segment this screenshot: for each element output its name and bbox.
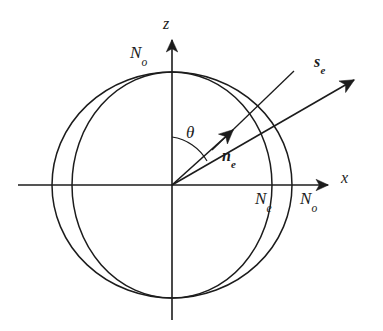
extraordinary-index-base: N [255, 189, 266, 208]
figure-canvas [0, 0, 383, 331]
ordinary-index-label-top: No [130, 44, 147, 65]
index-surface-figure: x z No Ne No θ ne se [0, 0, 383, 331]
ordinary-index-label-right: No [300, 190, 317, 211]
ordinary-index-right-sub: o [312, 202, 318, 215]
ray-vector [172, 80, 354, 185]
wave-normal-label: ne [222, 148, 236, 167]
ordinary-index-right-base: N [300, 189, 311, 208]
ray-vector-label: se [314, 54, 325, 73]
ordinary-index-top-sub: o [142, 56, 148, 69]
extraordinary-index-label: Ne [255, 190, 271, 211]
theta-label: θ [186, 124, 194, 141]
z-axis-label: z [163, 16, 169, 32]
extraordinary-index-sub: e [267, 202, 272, 215]
ray-vector-sub: e [320, 64, 325, 76]
x-axis-label: x [341, 170, 348, 186]
ordinary-index-top-base: N [130, 43, 141, 62]
wave-normal-base: n [222, 147, 231, 164]
wave-normal-sub: e [231, 158, 236, 170]
